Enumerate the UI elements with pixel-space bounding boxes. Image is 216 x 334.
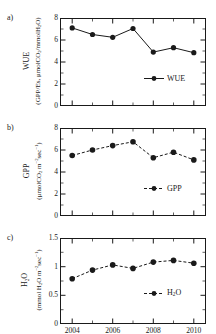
xtick-label: 2008 (146, 327, 161, 334)
ytick-label: 6 (54, 36, 58, 44)
panel-a: a) WUE (GPP/Es, μmolCO2/mmolH2O) 0 2 4 6… (0, 6, 216, 116)
panel-a-ylabel-main: WUE (22, 52, 31, 70)
ytick-label: 0 (54, 320, 58, 328)
panel-c-ylabel-main: H2O (20, 273, 31, 287)
panel-b-ylabel-units: (μmolCO2 m−2sec−1) (33, 142, 44, 199)
ytick-label: 8 (54, 124, 58, 132)
panel-c-tag: c) (7, 233, 13, 242)
ytick-label: 0 (54, 102, 58, 110)
panel-c-ylabel-units: (mmol H2O m−2sec−1) (33, 249, 44, 310)
x-axis-tick-labels: 2004 2006 2008 2010 (60, 324, 206, 334)
panel-c-legend: H2O (144, 288, 181, 299)
panel-a-axes-and-series (60, 18, 206, 106)
legend-symbol-icon (144, 289, 164, 298)
ytick-label: 1 (54, 263, 58, 271)
ytick-label: 6 (54, 146, 58, 154)
panel-b-legend: GPP (144, 184, 182, 193)
ytick-label: 2 (54, 80, 58, 88)
panel-b-tag: b) (7, 123, 14, 132)
xtick-label: 2004 (65, 327, 80, 334)
panel-a-legend-label: WUE (167, 74, 185, 83)
panel-a-tag: a) (7, 13, 13, 22)
panel-b: b) GPP (μmolCO2 m−2sec−1) 0 2 4 6 8 (0, 116, 216, 226)
panel-b-ytick-labels: 0 2 4 6 8 (44, 128, 60, 216)
panel-b-axes-and-series (60, 128, 206, 216)
panel-c-plot-area: 0 0.5 1 1.5 (60, 238, 206, 324)
panel-c-legend-label: H2O (167, 288, 181, 299)
ytick-label: 2 (54, 190, 58, 198)
legend-symbol-icon (144, 74, 164, 83)
series-markers-wue (70, 25, 197, 55)
legend-symbol-icon (144, 184, 164, 193)
ytick-label: 0 (54, 212, 58, 220)
figure-wue-gpp-h2o: a) WUE (GPP/Es, μmolCO2/mmolH2O) 0 2 4 6… (0, 0, 216, 334)
panel-c-axes-and-series (60, 238, 206, 324)
panel-a-legend: WUE (144, 74, 185, 83)
panel-c-ytick-labels: 0 0.5 1 1.5 (44, 238, 60, 324)
panel-a-plot-area: 0 2 4 6 8 (60, 18, 206, 106)
ytick-label: 0.5 (49, 291, 58, 299)
ytick-label: 8 (54, 14, 58, 22)
panel-c: c) H2O (mmol H2O m−2sec−1) 0 0.5 1 1.5 (0, 226, 216, 334)
xtick-label: 2006 (105, 327, 120, 334)
panel-b-plot-area: 0 2 4 6 8 (60, 128, 206, 216)
panel-a-ytick-labels: 0 2 4 6 8 (44, 18, 60, 106)
series-markers-h2o (69, 258, 196, 282)
xtick-label: 2010 (186, 327, 201, 334)
panel-b-legend-label: GPP (167, 184, 182, 193)
panel-b-ylabel-main: GPP (22, 164, 31, 179)
ytick-label: 4 (54, 58, 58, 66)
panel-a-ylabel-units: (GPP/Es, μmolCO2/mmolH2O) (34, 17, 44, 104)
ytick-label: 1.5 (49, 234, 58, 242)
ytick-label: 4 (54, 168, 58, 176)
